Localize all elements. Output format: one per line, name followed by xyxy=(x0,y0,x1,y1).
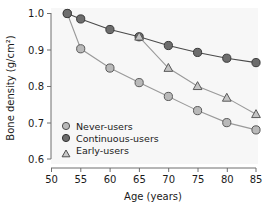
legend-label-never-users: Never-users xyxy=(76,121,133,132)
data-point xyxy=(63,9,71,17)
y-tick-label-5: 0.6 xyxy=(28,154,44,165)
y-tick-label-3: 0.8 xyxy=(28,81,44,92)
legend-item-continuous-users[interactable]: Continuous-users xyxy=(62,133,158,144)
data-point xyxy=(164,41,172,49)
data-point xyxy=(193,48,201,56)
legend-marker-circle-light-icon xyxy=(62,122,69,129)
x-tick-label-85: 85 xyxy=(250,174,263,185)
x-tick-label-70: 70 xyxy=(162,174,175,185)
x-axis: 50 55 60 65 70 75 80 85 xyxy=(45,168,262,185)
data-point xyxy=(223,119,231,127)
y-tick-label-2: 0.9 xyxy=(28,45,44,56)
bone-density-line-chart: 1.0 0.9 0.8 0.7 0.6 50 55 60 65 70 75 80… xyxy=(0,0,272,211)
y-tick-label-4: 0.7 xyxy=(28,118,44,129)
data-point xyxy=(252,59,260,67)
data-point xyxy=(106,25,114,33)
data-point xyxy=(164,92,172,100)
legend-label-early-users: Early-users xyxy=(76,145,129,156)
data-point xyxy=(77,15,85,23)
data-point xyxy=(193,107,201,115)
x-tick-label-60: 60 xyxy=(104,174,117,185)
data-point xyxy=(252,126,260,134)
data-point xyxy=(106,64,114,72)
chart-figure: 1.0 0.9 0.8 0.7 0.6 50 55 60 65 70 75 80… xyxy=(0,0,272,211)
data-point xyxy=(135,79,143,87)
data-point xyxy=(223,54,231,62)
x-tick-label-75: 75 xyxy=(192,174,205,185)
data-point xyxy=(77,45,85,53)
x-tick-label-65: 65 xyxy=(133,174,146,185)
legend-label-continuous-users: Continuous-users xyxy=(76,133,159,144)
y-tick-label-1: 1.0 xyxy=(28,8,44,19)
y-axis: 1.0 0.9 0.8 0.7 0.6 xyxy=(28,8,51,165)
legend-marker-circle-dark-icon xyxy=(62,134,69,141)
y-axis-title: Bone density (g/cm²) xyxy=(5,35,16,140)
x-tick-label-80: 80 xyxy=(221,174,234,185)
x-axis-title: Age (years) xyxy=(124,191,182,202)
x-tick-label-50: 50 xyxy=(45,174,58,185)
x-tick-label-55: 55 xyxy=(74,174,87,185)
